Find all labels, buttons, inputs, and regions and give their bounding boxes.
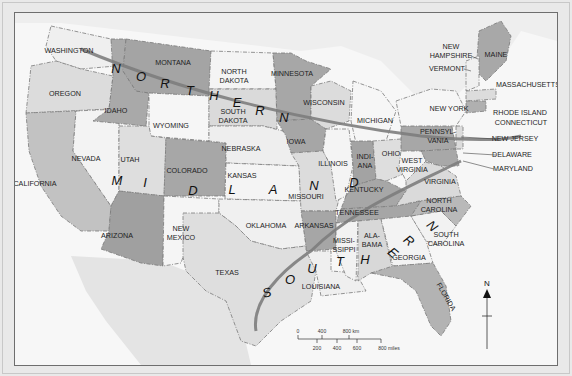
- label-texas: TEXAS: [215, 268, 239, 277]
- label-nevada: NEVADA: [71, 154, 100, 163]
- label-north-dakota-2: DAKOTA: [219, 76, 248, 85]
- label-new-mexico-2: MEXICO: [167, 233, 196, 242]
- scale-bar: 0 400 800 km 200 400 600 800 miles: [297, 328, 401, 351]
- label-illinois: ILLINOIS: [318, 159, 348, 168]
- map-frame: WASHINGTON OREGON CALIFORNIA NEVADA IDAH…: [14, 12, 558, 366]
- label-wyoming: WYOMING: [153, 121, 189, 130]
- region-northern-r2: R: [255, 103, 264, 118]
- state-michigan: [351, 81, 396, 143]
- label-arkansas: ARKANSAS: [294, 221, 333, 230]
- callout-vermont: VERMONT: [429, 64, 466, 73]
- label-louisiana: LOUISIANA: [302, 282, 341, 291]
- scale-mi-800: 800 miles: [378, 345, 400, 351]
- label-iowa: IOWA: [287, 137, 306, 146]
- callout-delaware: DELAWARE: [492, 150, 532, 159]
- state-wyoming: [149, 93, 209, 141]
- state-florida: [371, 263, 451, 336]
- state-oregon: [26, 61, 113, 113]
- scale-mi-600: 600: [353, 345, 362, 351]
- callout-new-jersey: NEW JERSEY: [492, 134, 539, 143]
- region-midland-l: L: [228, 182, 235, 197]
- callout-new-hampshire-2: HAMPSHIRE: [430, 51, 473, 60]
- state-vermont-nh: [466, 56, 479, 91]
- label-pennsylvania-2: VANIA: [427, 136, 448, 145]
- region-northern-n2: N: [279, 110, 289, 125]
- label-colorado: COLORADO: [166, 166, 208, 175]
- label-tennessee: TENNESSEE: [335, 208, 379, 217]
- label-new-york: NEW YORK: [429, 104, 468, 113]
- region-northern-h: H: [209, 88, 219, 103]
- label-oklahoma: OKLAHOMA: [246, 221, 287, 230]
- label-ohio: OHIO: [382, 149, 401, 158]
- region-midland-m: M: [112, 173, 123, 188]
- us-dialect-map: WASHINGTON OREGON CALIFORNIA NEVADA IDAH…: [15, 13, 557, 365]
- label-mississippi-2: SSIPPI: [332, 245, 355, 254]
- label-mississippi-1: MISSI-: [333, 236, 356, 245]
- label-north-carolina-2: CAROLINA: [421, 205, 458, 214]
- region-northern-r1: R: [160, 76, 169, 91]
- callout-massachusetts: MASSACHUSETTS: [496, 80, 557, 89]
- north-label: N: [484, 279, 490, 288]
- state-connecticut-ri: [466, 101, 486, 113]
- label-indiana-1: INDI-: [357, 152, 374, 161]
- label-washington: WASHINGTON: [44, 46, 93, 55]
- region-northern-e: E: [233, 95, 242, 110]
- scale-km-800: 800 km: [343, 328, 359, 334]
- scale-mi-200: 200: [313, 345, 322, 351]
- label-california: CALIFORNIA: [15, 179, 57, 188]
- state-massachusetts: [466, 89, 496, 101]
- region-midland-d1: D: [188, 183, 197, 198]
- leader-maryland: [463, 161, 494, 169]
- label-pennsylvania-1: PENNSYL-: [420, 127, 457, 136]
- label-new-mexico-1: NEW: [173, 224, 190, 233]
- region-northern-t: T: [186, 83, 195, 98]
- region-northern-o: O: [136, 69, 146, 84]
- region-southern-t: T: [336, 254, 345, 269]
- north-arrow-icon: N: [482, 279, 492, 349]
- region-midland-d2: D: [349, 175, 358, 190]
- scale-km-0: 0: [297, 328, 300, 334]
- label-montana: MONTANA: [155, 58, 191, 67]
- label-south-dakota-2: DAKOTA: [218, 116, 247, 125]
- label-indiana-2: ANA: [358, 161, 373, 170]
- label-west-virginia-1: WEST: [402, 156, 423, 165]
- callout-connecticut: CONNECTICUT: [495, 118, 548, 127]
- label-georgia: GEORGIA: [392, 253, 426, 262]
- region-northern-n1: N: [111, 61, 121, 76]
- label-michigan: MICHIGAN: [357, 116, 393, 125]
- label-north-dakota-1: NORTH: [221, 67, 246, 76]
- label-utah: UTAH: [120, 155, 139, 164]
- label-south-carolina-1: SOUTH: [433, 230, 458, 239]
- label-arizona: ARIZONA: [101, 231, 133, 240]
- region-southern-h: H: [360, 252, 370, 267]
- region-southern-u: U: [307, 261, 317, 276]
- region-midland-a: A: [268, 182, 278, 197]
- label-maine: MAINE: [485, 50, 508, 59]
- label-alabama-1: ALA-: [364, 231, 381, 240]
- region-midland-i: I: [143, 175, 147, 190]
- label-nebraska: NEBRASKA: [221, 144, 260, 153]
- region-southern-o: O: [285, 272, 295, 287]
- label-wisconsin: WISCONSIN: [303, 98, 345, 107]
- label-idaho: IDAHO: [105, 106, 128, 115]
- label-alabama-2: BAMA: [362, 240, 383, 249]
- label-virginia: VIRGINIA: [424, 177, 456, 186]
- label-minnesota: MINNESOTA: [271, 69, 313, 78]
- callout-new-hampshire-1: NEW: [443, 42, 460, 51]
- label-west-virginia-2: VIRGINIA: [396, 165, 428, 174]
- label-oregon: OREGON: [49, 89, 81, 98]
- region-midland-n: N: [309, 178, 319, 193]
- leader-delaware: [463, 153, 496, 155]
- label-north-carolina-1: NORTH: [426, 196, 451, 205]
- label-south-carolina-2: CAROLINA: [428, 239, 465, 248]
- scale-mi-400: 400: [333, 345, 342, 351]
- callout-maryland: MARYLAND: [493, 164, 533, 173]
- label-kansas: KANSAS: [227, 171, 256, 180]
- scale-km-400: 400: [318, 328, 327, 334]
- label-missouri: MISSOURI: [288, 192, 324, 201]
- callout-rhode-island: RHODE ISLAND: [493, 108, 547, 117]
